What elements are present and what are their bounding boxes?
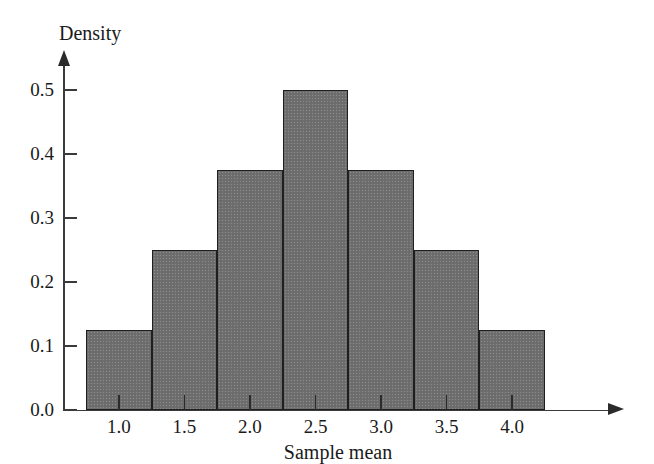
x-axis-tick — [380, 395, 382, 410]
x-axis-tick-label: 1.5 — [154, 417, 214, 436]
x-axis-tick — [184, 395, 186, 410]
histogram-bar — [283, 90, 349, 410]
x-axis-tick — [118, 395, 120, 410]
histogram-bar — [414, 250, 480, 410]
x-axis-tick — [315, 395, 317, 410]
histogram-bar — [348, 170, 414, 410]
histogram-bars — [0, 0, 654, 464]
x-axis-tick-label: 2.0 — [220, 417, 280, 436]
x-axis-tick-label: 1.0 — [89, 417, 149, 436]
x-axis-tick-label: 3.5 — [417, 417, 477, 436]
x-axis-tick-label: 4.0 — [482, 417, 542, 436]
x-axis-tick-label: 3.0 — [351, 417, 411, 436]
x-axis-tick-label: 2.5 — [286, 417, 346, 436]
x-axis-tick — [249, 395, 251, 410]
x-axis-title: Sample mean — [0, 441, 654, 464]
x-axis-tick — [511, 395, 513, 410]
histogram-bar — [217, 170, 283, 410]
x-axis-tick — [446, 395, 448, 410]
histogram-figure: Density 0.00.10.20.30.40.5 1.01.52.02.53… — [0, 0, 654, 464]
histogram-bar — [152, 250, 218, 410]
